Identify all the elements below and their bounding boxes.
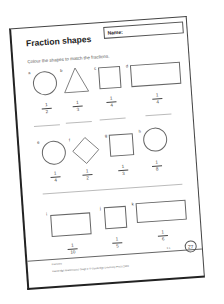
triangle-shape-b[interactable] [62,66,90,94]
item-label-i: i [46,211,47,216]
fraction-k: 16 [155,229,170,242]
name-field[interactable]: Name: [103,21,184,39]
fraction-c: 14 [104,95,119,108]
item-label-c: c [94,66,96,71]
fraction-h: 18 [150,159,165,172]
fraction-i: 110 [65,242,80,255]
answer-line-c[interactable] [100,118,126,121]
worksheet-page: Fraction shapes Name: Colour the shapes … [9,16,205,290]
footer-divider [27,249,202,262]
item-label-a: a [28,70,31,75]
square-shape-j[interactable] [104,206,127,229]
square-shape-c[interactable] [98,66,121,89]
answer-line-b[interactable] [66,121,92,124]
circle-shape-a[interactable] [32,70,58,96]
worksheet-title: Fraction shapes [26,34,92,49]
diamond-shape-f[interactable] [71,136,101,166]
item-label-g: g [105,133,108,138]
fraction-d: 14 [150,92,165,105]
fraction-b: 13 [70,99,85,112]
answer-line-d[interactable] [145,113,171,116]
circle-shape-e[interactable] [41,140,67,166]
page-number: 27 [184,240,197,253]
instruction-text: Colour the shapes to match the fractions… [27,54,109,65]
answer-line-row2[interactable] [43,184,183,195]
name-label: Name: [107,29,123,36]
fraction-g: 13 [116,163,131,176]
fraction-f: 12 [80,168,95,181]
item-label-e: e [37,140,40,145]
footer-topic: Fractions [52,262,62,266]
item-label-j: j [100,206,101,211]
rectangle-shape-k[interactable] [136,200,187,223]
item-label-k: k [131,201,133,206]
fraction-a: 12 [39,102,54,115]
item-label-d: d [126,63,129,68]
footer-copyright: Cambridge Mathematics Stage 2 © Cambridg… [52,265,129,273]
rectangle-shape-i[interactable] [50,212,91,237]
rectangle-shape-d[interactable] [130,62,181,87]
footer-code: 3.1 [167,247,171,250]
circle-shape-h[interactable] [142,127,168,153]
square-shape-g[interactable] [109,133,134,157]
answer-line-a[interactable] [34,124,60,127]
item-label-h: h [138,129,141,134]
fraction-e: 14 [48,170,63,183]
fraction-j: 15 [110,236,125,249]
